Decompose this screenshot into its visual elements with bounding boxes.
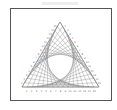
left-edge-label: 2 <box>23 78 25 81</box>
left-edge-label: 9 <box>40 49 42 52</box>
thread-line <box>58 57 81 87</box>
left-edge-label: 12 <box>46 37 50 40</box>
thread-line <box>37 48 75 61</box>
bottom-edge-label: 6 <box>50 90 52 93</box>
right-edge-label: 3 <box>69 33 71 36</box>
thread-lines <box>22 22 99 87</box>
right-edge-label: 4 <box>72 37 74 40</box>
right-edge-label: 14 <box>95 78 99 81</box>
bottom-edge-label: 1 <box>26 90 28 93</box>
bottom-edge-label: 4 <box>40 90 42 93</box>
bottom-edge-label: 11 <box>73 90 77 93</box>
triangle-edge-right <box>60 22 99 87</box>
right-edge-label: 9 <box>84 57 86 60</box>
bottom-edge-label: 9 <box>65 90 67 93</box>
left-edge-label: 6 <box>33 61 35 64</box>
left-edge-label: 3 <box>26 74 28 77</box>
bottom-edge-label: 8 <box>60 90 62 93</box>
right-edge-label: 13 <box>93 74 97 77</box>
left-edge-label: 13 <box>49 33 53 36</box>
left-edge-label: 14 <box>51 29 55 32</box>
thread-line <box>47 44 86 66</box>
right-edge-label: 2 <box>67 29 69 32</box>
bottom-edge-label: 2 <box>31 90 33 93</box>
thread-line <box>63 52 78 87</box>
left-edge-label: 5 <box>31 65 33 68</box>
right-edge-label: 8 <box>82 53 84 56</box>
bottom-edge-label: 3 <box>36 90 38 93</box>
right-edge-label: 5 <box>74 41 76 44</box>
left-edge-label: 7 <box>35 57 37 60</box>
left-edge-label: 10 <box>42 45 46 48</box>
thread-line <box>43 70 89 87</box>
bottom-edge-label: 13 <box>83 90 87 93</box>
left-edge-label: 4 <box>28 70 30 73</box>
right-edge-label: 12 <box>91 70 95 73</box>
thread-line <box>35 44 73 66</box>
right-edge-label: 10 <box>86 61 90 64</box>
thread-line <box>63 26 94 87</box>
right-edge-label: 15 <box>98 82 102 85</box>
thread-line <box>45 48 84 61</box>
thread-line <box>32 78 94 87</box>
right-edge-label: 11 <box>88 65 92 68</box>
bottom-edge-label: 10 <box>69 90 73 93</box>
left-edge-label: 15 <box>54 25 58 28</box>
right-edge-label: 6 <box>77 45 79 48</box>
right-edge-label: 1 <box>64 25 66 28</box>
bottom-edge-label: 12 <box>78 90 82 93</box>
left-edge-label: 1 <box>21 82 23 85</box>
bottom-edge-label: 15 <box>93 90 97 93</box>
bottom-edge-label: 5 <box>45 90 47 93</box>
bottom-edge-label: 7 <box>55 90 57 93</box>
right-edge-label: 7 <box>79 49 81 52</box>
left-edge-label: 11 <box>44 41 48 44</box>
string-art-triangle: 1234567891011121314151234567891011121314… <box>0 0 117 110</box>
thread-line <box>42 52 58 87</box>
left-edge-label: 8 <box>38 53 40 56</box>
triangle-edge-left <box>22 22 60 87</box>
thread-line <box>32 70 78 87</box>
bottom-edge-label: 14 <box>88 90 92 93</box>
